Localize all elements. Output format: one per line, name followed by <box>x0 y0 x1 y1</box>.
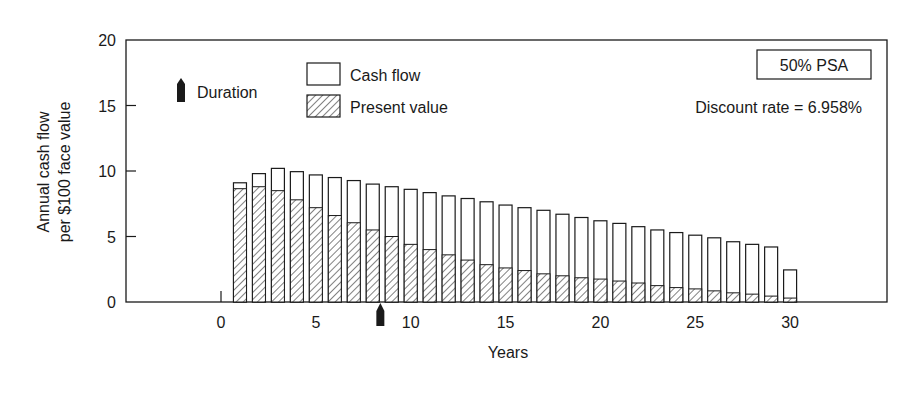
bar-year-26 <box>708 238 721 302</box>
bar-year-27 <box>727 242 740 302</box>
present-value-bar <box>746 294 759 302</box>
bar-year-12 <box>442 196 455 302</box>
bar-year-30 <box>784 270 797 302</box>
duration-axis-marker-icon <box>376 303 384 326</box>
present-value-bar <box>784 298 797 302</box>
present-value-bar <box>537 274 550 302</box>
present-value-bar <box>385 237 398 303</box>
bar-year-22 <box>632 227 645 302</box>
present-value-bar <box>404 244 417 302</box>
present-value-bar <box>347 223 360 302</box>
legend-label-present-value: Present value <box>350 99 448 116</box>
bar-year-24 <box>670 233 683 302</box>
y-tick-label: 20 <box>98 32 116 49</box>
present-value-bar <box>556 276 569 302</box>
duration-legend: Duration <box>177 78 257 102</box>
bar-year-13 <box>461 199 474 302</box>
legend: Cash flow Present value <box>307 63 448 117</box>
discount-rate-label: Discount rate = 6.958% <box>695 99 862 116</box>
bars-group <box>233 168 796 302</box>
x-tick-label: 10 <box>402 314 420 331</box>
duration-legend-label: Duration <box>197 84 257 101</box>
y-tick-label: 0 <box>107 294 116 311</box>
bar-year-14 <box>480 202 493 302</box>
bar-year-16 <box>518 208 531 302</box>
bar-year-10 <box>404 189 417 302</box>
bar-year-6 <box>328 178 341 302</box>
present-value-bar <box>233 189 246 302</box>
bar-year-20 <box>594 221 607 302</box>
present-value-bar <box>328 216 341 302</box>
present-value-bar <box>518 271 531 302</box>
bar-year-25 <box>689 235 702 302</box>
y-axis-label-line2: per $100 face value <box>56 102 73 243</box>
x-tick-label: 0 <box>217 314 226 331</box>
x-tick-label: 30 <box>781 314 799 331</box>
present-value-bar <box>689 289 702 302</box>
bar-year-8 <box>366 184 379 302</box>
present-value-bar <box>366 230 379 302</box>
present-value-bar <box>727 293 740 302</box>
bar-year-7 <box>347 181 360 302</box>
cash-flow-chart: 05101520 051015202530 Annual cash flow p… <box>0 0 915 410</box>
present-value-bar <box>594 279 607 302</box>
x-tick-label: 5 <box>311 314 320 331</box>
bar-year-28 <box>746 244 759 302</box>
bar-year-19 <box>575 218 588 302</box>
cash-flow-bar <box>765 247 778 302</box>
scenario-label: 50% PSA <box>780 57 849 74</box>
bar-year-3 <box>271 168 284 302</box>
present-value-bar <box>575 278 588 302</box>
present-value-bar <box>613 281 626 302</box>
present-value-bar <box>271 191 284 302</box>
x-tick-label: 25 <box>686 314 704 331</box>
y-tick-label: 10 <box>98 163 116 180</box>
duration-marker-icon <box>177 78 185 102</box>
bar-year-9 <box>385 187 398 302</box>
present-value-bar <box>651 286 664 302</box>
bar-year-2 <box>252 174 265 302</box>
present-value-bar <box>423 250 436 302</box>
bar-year-4 <box>290 172 303 302</box>
present-value-bar <box>499 268 512 302</box>
present-value-bar <box>309 208 322 302</box>
bar-year-1 <box>233 183 246 302</box>
present-value-bar <box>290 200 303 302</box>
present-value-bar <box>442 255 455 302</box>
present-value-bar <box>461 260 474 302</box>
y-axis: 05101520 <box>98 32 136 311</box>
cash-flow-bar <box>746 244 759 302</box>
bar-year-15 <box>499 205 512 302</box>
legend-swatch-cash-flow <box>307 63 340 85</box>
legend-label-cash-flow: Cash flow <box>350 67 421 84</box>
bar-year-18 <box>556 214 569 302</box>
bar-year-21 <box>613 223 626 302</box>
x-axis-label: Years <box>488 344 528 361</box>
y-tick-label: 5 <box>107 229 116 246</box>
scenario-annotation: 50% PSA Discount rate = 6.958% <box>695 50 871 116</box>
bar-year-17 <box>537 210 550 302</box>
present-value-bar <box>480 265 493 302</box>
bar-year-23 <box>651 230 664 302</box>
present-value-bar <box>252 187 265 302</box>
legend-swatch-present-value <box>307 95 340 117</box>
x-tick-label: 20 <box>592 314 610 331</box>
cash-flow-bar <box>784 270 797 302</box>
present-value-bar <box>670 288 683 302</box>
present-value-bar <box>765 296 778 302</box>
bar-year-5 <box>309 175 322 302</box>
y-tick-label: 15 <box>98 98 116 115</box>
present-value-bar <box>632 283 645 302</box>
present-value-bar <box>708 291 721 302</box>
bar-year-29 <box>765 247 778 302</box>
bar-year-11 <box>423 193 436 302</box>
x-tick-label: 15 <box>497 314 515 331</box>
y-axis-label-line1: Annual cash flow <box>35 111 52 232</box>
